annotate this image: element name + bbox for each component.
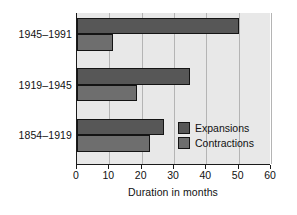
x-axis-title: Duration in months bbox=[76, 186, 270, 198]
gridline bbox=[271, 13, 272, 164]
legend-swatch-contractions bbox=[178, 137, 190, 149]
legend-label-contractions: Contractions bbox=[195, 137, 254, 149]
category-label-2: 1854–1919 bbox=[0, 129, 72, 141]
x-tick-label-60: 60 bbox=[255, 169, 285, 181]
legend-item-contractions: Contractions bbox=[178, 137, 254, 149]
bar-expansions-1 bbox=[77, 68, 190, 85]
bar-expansions-2 bbox=[77, 119, 164, 136]
bar-contractions-1 bbox=[77, 85, 137, 102]
x-tick-label-40: 40 bbox=[190, 169, 220, 181]
category-label-0: 1945–1991 bbox=[0, 28, 72, 40]
bar-expansions-0 bbox=[77, 18, 239, 35]
legend-label-expansions: Expansions bbox=[195, 122, 249, 134]
legend-item-expansions: Expansions bbox=[178, 122, 254, 134]
x-tick-label-0: 0 bbox=[61, 169, 91, 181]
bar-contractions-2 bbox=[77, 135, 150, 152]
x-tick-label-10: 10 bbox=[93, 169, 123, 181]
x-tick-label-30: 30 bbox=[158, 169, 188, 181]
legend: Expansions Contractions bbox=[178, 122, 254, 149]
legend-swatch-expansions bbox=[178, 122, 190, 134]
x-axis-tick-labels: 0102030405060 bbox=[0, 169, 297, 183]
x-tick-label-50: 50 bbox=[223, 169, 253, 181]
bar-contractions-0 bbox=[77, 34, 113, 51]
bar-chart: 1945–19911919–19451854–1919 010203040506… bbox=[0, 0, 297, 215]
category-label-1: 1919–1945 bbox=[0, 79, 72, 91]
x-tick-label-20: 20 bbox=[126, 169, 156, 181]
